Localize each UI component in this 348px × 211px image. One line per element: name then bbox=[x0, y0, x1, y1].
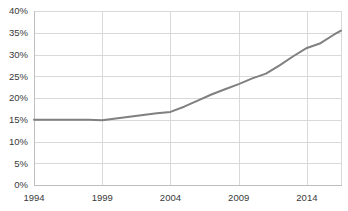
x-axis-tick-labels: 19941999200420092014 bbox=[23, 192, 317, 203]
x-tick-label: 2009 bbox=[228, 192, 249, 203]
y-tick-label: 35% bbox=[9, 27, 29, 38]
horizontal-gridlines bbox=[34, 12, 341, 186]
line-chart: 0%5%10%15%20%25%30%35%40% 19941999200420… bbox=[0, 0, 348, 211]
series-line bbox=[34, 31, 341, 121]
y-tick-label: 40% bbox=[9, 5, 29, 16]
data-series-group bbox=[34, 31, 341, 121]
y-tick-label: 15% bbox=[9, 114, 29, 125]
x-tick-label: 1999 bbox=[92, 192, 113, 203]
x-tick-label: 1994 bbox=[23, 192, 44, 203]
y-tick-label: 25% bbox=[9, 71, 29, 82]
y-tick-label: 30% bbox=[9, 49, 29, 60]
y-tick-label: 0% bbox=[14, 179, 28, 190]
x-tick-label: 2014 bbox=[296, 192, 317, 203]
y-tick-label: 10% bbox=[9, 136, 29, 147]
y-tick-label: 20% bbox=[9, 92, 29, 103]
chart-canvas: 0%5%10%15%20%25%30%35%40% 19941999200420… bbox=[0, 0, 348, 211]
y-tick-label: 5% bbox=[14, 158, 28, 169]
x-tick-label: 2004 bbox=[160, 192, 181, 203]
y-axis-tick-labels: 0%5%10%15%20%25%30%35%40% bbox=[9, 5, 29, 190]
